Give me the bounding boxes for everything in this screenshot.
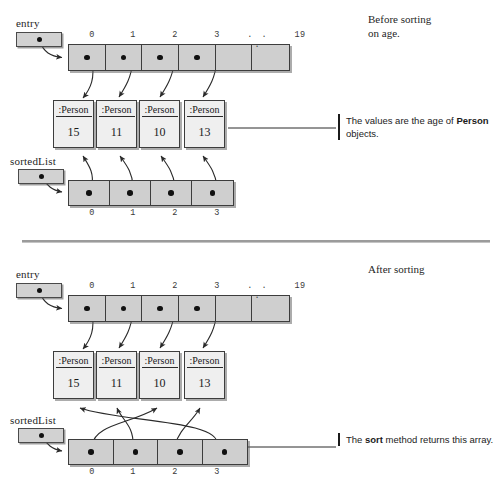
entry-pointer-box-top[interactable] — [16, 32, 62, 47]
array-index-1: 1 — [121, 30, 145, 40]
array-cell-2[interactable] — [142, 296, 179, 321]
note-person-ages: The values are the age of Person objects… — [338, 114, 496, 140]
person-object-0-top[interactable]: :Person 15 — [53, 100, 94, 148]
sortedlist-pointer-box-bottom[interactable] — [18, 428, 64, 443]
array-index-ellipsis: . . . — [246, 30, 270, 50]
sorted-cell-0[interactable] — [69, 181, 110, 205]
cell-reference-dot — [121, 55, 127, 61]
array-cell-3[interactable] — [179, 296, 216, 321]
person-class-name: :Person — [99, 101, 135, 117]
person-class-name: :Person — [99, 352, 135, 368]
diagram-canvas: Before sorting on age. entry 0 1 2 3 . .… — [0, 0, 498, 483]
array-cell-1[interactable] — [106, 45, 143, 70]
person-class-name: :Person — [56, 352, 92, 368]
note-text-part2: objects. — [346, 128, 379, 139]
person-age-value: 11 — [97, 368, 136, 398]
array-index-19: 19 — [288, 30, 312, 40]
cell-reference-dot — [121, 306, 127, 312]
sortedlist-label-bottom: sortedList — [10, 414, 56, 426]
section-divider — [22, 240, 490, 242]
cell-reference-dot — [88, 449, 94, 455]
array-index-3: 3 — [205, 281, 229, 291]
entry-label-top: entry — [16, 17, 40, 29]
pointer-dot — [39, 433, 44, 438]
pointer-dot — [39, 174, 44, 179]
sorted-cell-2[interactable] — [158, 440, 203, 464]
person-object-0-bottom[interactable]: :Person 15 — [53, 351, 94, 399]
note-text-part1: The values are the age of — [346, 115, 456, 126]
array-cell-3[interactable] — [179, 45, 216, 70]
note-text-part1: The — [346, 434, 365, 445]
array-index-2: 2 — [163, 281, 187, 291]
sortedlist-label-top: sortedList — [10, 155, 56, 167]
cell-reference-dot — [157, 55, 163, 61]
sorted-cell-3[interactable] — [192, 181, 233, 205]
person-class-name: :Person — [56, 101, 92, 117]
cell-reference-dot — [127, 190, 133, 196]
note-text-bold: sort — [365, 434, 383, 445]
person-age-value: 13 — [185, 117, 224, 147]
array-cell-0[interactable] — [69, 296, 106, 321]
sorted-index-3: 3 — [205, 467, 229, 477]
person-object-2-bottom[interactable]: :Person 10 — [139, 351, 180, 399]
person-class-name: :Person — [187, 101, 223, 117]
array-index-19: 19 — [288, 281, 312, 291]
cell-reference-dot — [168, 190, 174, 196]
person-age-value: 13 — [185, 368, 224, 398]
cell-reference-dot — [86, 190, 92, 196]
array-index-0: 0 — [80, 30, 104, 40]
sorted-cell-2[interactable] — [151, 181, 192, 205]
sortedlist-pointer-box-top[interactable] — [18, 169, 64, 184]
sorted-index-0: 0 — [80, 208, 104, 218]
caption-after-sorting: After sorting — [368, 262, 425, 276]
person-age-value: 15 — [54, 368, 93, 398]
note-sort-returns-array: The sort method returns this array. — [338, 433, 496, 446]
note-text-bold: Person — [456, 115, 488, 126]
person-object-2-top[interactable]: :Person 10 — [139, 100, 180, 148]
sorted-index-3: 3 — [205, 208, 229, 218]
cell-reference-dot — [194, 306, 200, 312]
note-text-part2: method returns this array. — [383, 434, 493, 445]
sorted-cell-1[interactable] — [114, 440, 159, 464]
person-age-value: 15 — [54, 117, 93, 147]
cell-reference-dot — [177, 449, 183, 455]
person-class-name: :Person — [142, 352, 178, 368]
sorted-array-bottom[interactable] — [68, 439, 248, 465]
person-object-1-top[interactable]: :Person 11 — [96, 100, 137, 148]
cell-reference-dot — [194, 55, 200, 61]
person-object-1-bottom[interactable]: :Person 11 — [96, 351, 137, 399]
person-age-value: 11 — [97, 117, 136, 147]
person-object-3-top[interactable]: :Person 13 — [184, 100, 225, 148]
entry-label-bottom: entry — [16, 268, 40, 280]
sorted-index-2: 2 — [163, 467, 187, 477]
array-index-2: 2 — [163, 30, 187, 40]
person-age-value: 10 — [140, 117, 179, 147]
person-class-name: :Person — [142, 101, 178, 117]
cell-reference-dot — [84, 55, 90, 61]
cell-reference-dot — [222, 449, 228, 455]
sorted-cell-0[interactable] — [69, 440, 114, 464]
array-index-1: 1 — [121, 281, 145, 291]
sorted-cell-3[interactable] — [203, 440, 247, 464]
array-index-ellipsis: . . . — [246, 281, 270, 301]
cell-reference-dot — [84, 306, 90, 312]
sorted-index-2: 2 — [163, 208, 187, 218]
sorted-array-top[interactable] — [68, 180, 234, 206]
array-index-0: 0 — [80, 281, 104, 291]
person-age-value: 10 — [140, 368, 179, 398]
person-object-3-bottom[interactable]: :Person 13 — [184, 351, 225, 399]
array-cell-2[interactable] — [142, 45, 179, 70]
sorted-cell-1[interactable] — [110, 181, 151, 205]
cell-reference-dot — [157, 306, 163, 312]
pointer-dot — [37, 288, 42, 293]
entry-pointer-box-bottom[interactable] — [16, 283, 62, 298]
array-cell-0[interactable] — [69, 45, 106, 70]
sorted-index-1: 1 — [121, 467, 145, 477]
person-class-name: :Person — [187, 352, 223, 368]
sorted-index-0: 0 — [80, 467, 104, 477]
array-cell-1[interactable] — [106, 296, 143, 321]
caption-before-sorting: Before sorting on age. — [368, 12, 431, 40]
cell-reference-dot — [210, 190, 216, 196]
sorted-index-1: 1 — [121, 208, 145, 218]
array-index-3: 3 — [205, 30, 229, 40]
